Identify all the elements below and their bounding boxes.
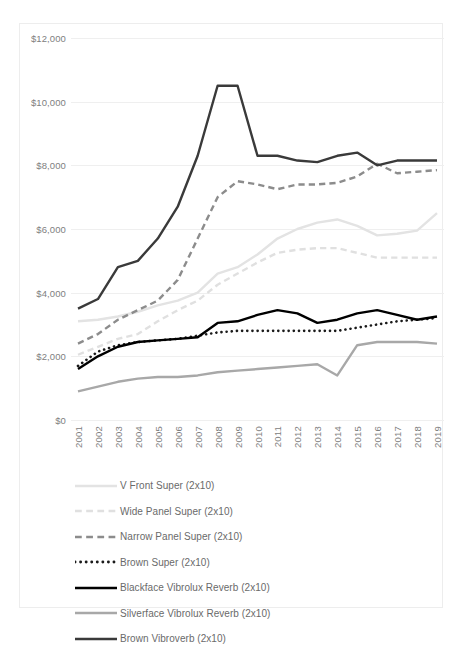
x-axis-tick-label: 2011 xyxy=(272,426,283,447)
x-axis-tick-label: 2016 xyxy=(372,426,383,448)
x-axis-tick-label: 2010 xyxy=(253,426,264,448)
gridline xyxy=(71,420,444,421)
y-axis-tick-label: $10,000 xyxy=(31,96,66,107)
legend-item-label: Narrow Panel Super (2x10) xyxy=(120,531,242,542)
x-axis-tick-label: 2006 xyxy=(173,426,184,448)
y-axis-tick-label: $6,000 xyxy=(36,224,66,235)
legend-item[interactable]: Blackface Vibrolux Reverb (2x10) xyxy=(75,575,425,601)
legend-item[interactable]: Silverface Vibrolux Reverb (2x10) xyxy=(75,601,425,627)
x-axis-tick-label: 2009 xyxy=(233,426,244,448)
y-axis-tick-label: $0 xyxy=(55,415,66,426)
legend-swatch-icon xyxy=(75,480,117,492)
chart-legend: V Front Super (2x10)Wide Panel Super (2x… xyxy=(75,473,425,648)
legend-swatch-icon xyxy=(75,582,117,594)
series-line xyxy=(78,213,437,321)
x-axis-tick-label: 2015 xyxy=(352,426,363,448)
x-axis-tick-label: 2019 xyxy=(432,426,443,448)
series-line xyxy=(78,86,437,309)
legend-item[interactable]: Brown Super (2x10) xyxy=(75,550,425,576)
legend-item-label: Wide Panel Super (2x10) xyxy=(120,506,233,517)
series-canvas xyxy=(71,38,444,420)
x-axis-tick-label: 2004 xyxy=(133,426,144,448)
legend-swatch-icon xyxy=(75,607,117,619)
series-line xyxy=(78,310,437,369)
legend-item[interactable]: Brown Vibroverb (2x10) xyxy=(75,626,425,648)
legend-swatch-icon xyxy=(75,505,117,517)
x-axis-tick-label: 2012 xyxy=(292,426,303,448)
legend-item-label: Blackface Vibrolux Reverb (2x10) xyxy=(120,582,270,593)
legend-item-label: Brown Vibroverb (2x10) xyxy=(120,633,226,644)
legend-item-label: Brown Super (2x10) xyxy=(120,557,210,568)
legend-swatch-icon xyxy=(75,531,117,543)
y-axis-tick-label: $12,000 xyxy=(31,33,66,44)
series-line xyxy=(78,342,437,391)
x-axis-tick-label: 2002 xyxy=(93,426,104,448)
legend-item[interactable]: Narrow Panel Super (2x10) xyxy=(75,524,425,550)
y-axis: $0$2,000$4,000$6,000$8,000$10,000$12,000 xyxy=(20,38,66,420)
x-axis-tick-label: 2014 xyxy=(332,426,343,448)
series-line xyxy=(78,248,437,355)
x-axis-tick-label: 2008 xyxy=(213,426,224,448)
legend-item-label: Silverface Vibrolux Reverb (2x10) xyxy=(120,608,270,619)
chart-card: $0$2,000$4,000$6,000$8,000$10,000$12,000… xyxy=(19,23,443,608)
x-axis: 2001200220032004200520062007200820092010… xyxy=(71,424,444,470)
x-axis-tick-label: 2005 xyxy=(153,426,164,448)
plot-area xyxy=(71,38,444,420)
legend-item-label: V Front Super (2x10) xyxy=(120,480,214,491)
y-axis-tick-label: $4,000 xyxy=(36,287,66,298)
x-axis-tick-label: 2001 xyxy=(73,426,84,448)
y-axis-tick-label: $2,000 xyxy=(36,351,66,362)
legend-item[interactable]: V Front Super (2x10) xyxy=(75,473,425,499)
legend-item[interactable]: Wide Panel Super (2x10) xyxy=(75,499,425,525)
legend-swatch-icon xyxy=(75,556,117,568)
x-axis-tick-label: 2007 xyxy=(193,426,204,448)
legend-swatch-icon xyxy=(75,633,117,645)
x-axis-tick-label: 2003 xyxy=(113,426,124,448)
x-axis-tick-label: 2013 xyxy=(312,426,323,448)
y-axis-tick-label: $8,000 xyxy=(36,160,66,171)
x-axis-tick-label: 2018 xyxy=(412,426,423,448)
x-axis-tick-label: 2017 xyxy=(392,426,403,448)
